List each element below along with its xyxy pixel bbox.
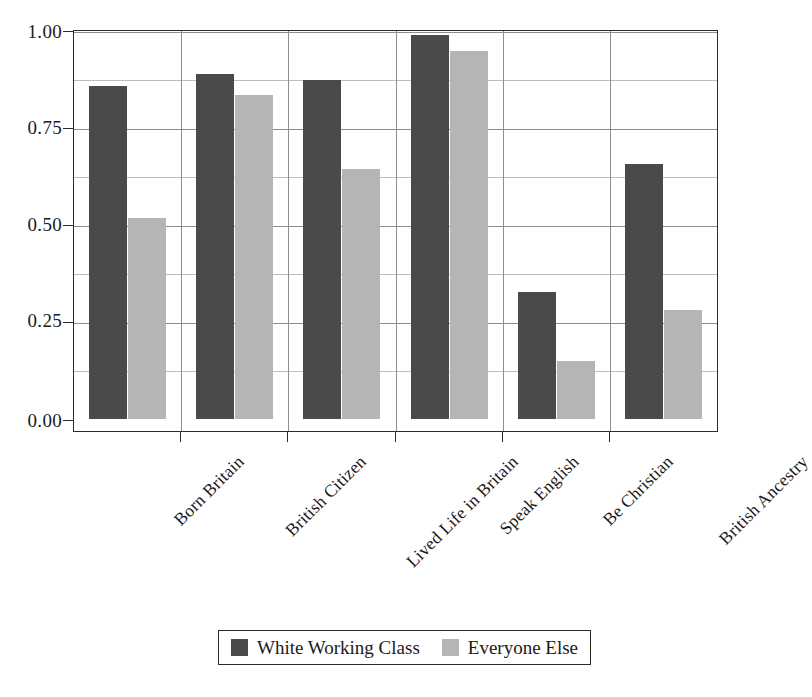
gridline-x-4 [503,31,504,431]
x-tick-label-british-ancestry: British Ancestry [715,452,811,548]
x-tick-label-be-christian: Be Christian [599,452,676,529]
y-tick-label: 0.00 [28,411,62,430]
x-tick-label-lived-life-in-britain: Lived Life in Britain [403,452,521,570]
bar-lived-life-in-britain-everyone-else [342,169,380,419]
legend-swatch-icon [231,639,248,656]
bar-born-britain-everyone-else [128,218,166,419]
bar-lived-life-in-britain-wwc [303,80,341,419]
bar-british-ancestry-everyone-else [664,310,702,419]
x-tick-mark [609,432,610,442]
bar-speak-english-everyone-else [450,51,488,419]
bar-british-ancestry-wwc [625,164,663,419]
x-tick-label-born-britain: Born Britain [170,452,247,529]
x-tick-mark [287,432,288,442]
y-tick-label: 0.25 [28,311,62,330]
legend-entry-everyone-else: Everyone Else [442,638,578,657]
bar-be-christian-wwc [518,292,556,419]
gridline-x-5 [610,31,611,431]
bar-speak-english-wwc [411,35,449,419]
x-tick-mark [395,432,396,442]
legend-label: Everyone Else [468,638,578,657]
x-tick-label-british-citizen: British Citizen [282,452,369,539]
plot-area [73,30,718,432]
x-tick-mark [502,432,503,442]
bar-british-citizen-everyone-else [235,95,273,419]
legend-entry-white-working-class: White Working Class [231,638,420,657]
y-tick-label: 0.75 [28,118,62,137]
bar-british-citizen-wwc [196,74,234,419]
gridline-x-3 [396,31,397,431]
gridline-x-1 [181,31,182,431]
y-tick-label: 0.50 [28,215,62,234]
bar-born-britain-wwc [89,86,127,419]
legend-swatch-icon [442,639,459,656]
bar-be-christian-everyone-else [557,361,595,419]
x-tick-mark [180,432,181,442]
chart-legend: White Working Class Everyone Else [218,630,591,665]
y-tick-label: 1.00 [28,22,62,41]
gridline-x-2 [288,31,289,431]
legend-label: White Working Class [257,638,420,657]
